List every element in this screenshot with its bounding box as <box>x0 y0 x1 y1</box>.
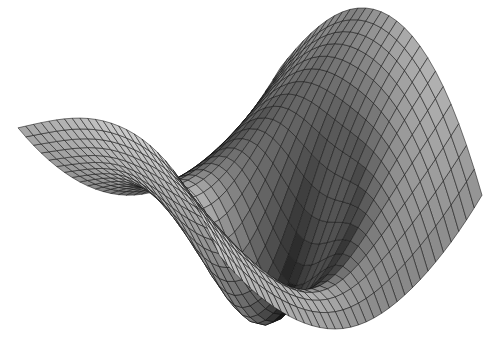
figure-container: Grayscale three dimensional shaded wiref… <box>0 0 500 337</box>
surface-plot: Grayscale three dimensional shaded wiref… <box>0 0 500 337</box>
